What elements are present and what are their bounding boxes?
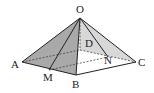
label-a: A <box>11 58 19 70</box>
label-o: O <box>76 3 84 15</box>
label-m: M <box>43 71 53 83</box>
label-b: B <box>72 78 79 90</box>
label-c: C <box>138 56 145 68</box>
pyramid-diagram: O A M B N D C <box>0 0 154 93</box>
label-n: N <box>104 54 112 66</box>
label-d: D <box>85 37 93 49</box>
